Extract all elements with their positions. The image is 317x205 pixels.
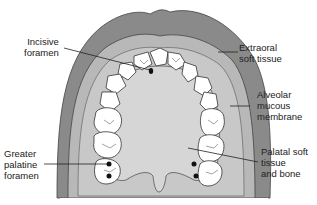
greater-palatine-foramen-right-1: [192, 162, 197, 167]
label-greater-palatine-foramen: Greater palatine foramen: [4, 148, 39, 181]
label-incisive-foramen: Incisive foramen: [24, 36, 59, 58]
label-alveolar-mucous-membrane: Alveolar mucous membrane: [257, 89, 302, 122]
incisive-foramen-marker: [149, 68, 153, 74]
greater-palatine-foramen-right-2: [194, 174, 199, 179]
greater-palatine-foramen-left-2: [107, 174, 112, 179]
label-palatal-soft-tissue-and-bone: Palatal soft tissue and bone: [261, 146, 308, 179]
greater-palatine-foramen-left-1: [107, 162, 112, 167]
label-extraoral-soft-tissue: Extraoral soft tissue: [239, 42, 282, 64]
